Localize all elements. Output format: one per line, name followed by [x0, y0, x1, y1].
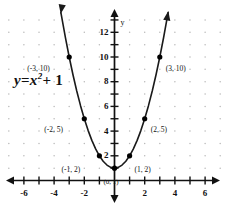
equation-label: y=x2+ 1: [14, 72, 63, 88]
x-axis-left-arrow: [6, 177, 14, 185]
grid-dot: [38, 130, 40, 132]
grid-dot: [99, 93, 101, 95]
grid-dot: [99, 69, 101, 71]
grid-dot: [53, 143, 55, 145]
y-tick-label: 12: [100, 28, 109, 37]
grid-dot: [189, 44, 191, 46]
grid-dot: [38, 19, 40, 21]
grid-dot: [23, 93, 25, 95]
grid-dot: [84, 93, 86, 95]
grid-dot: [23, 143, 25, 145]
data-point-marker: [82, 116, 87, 121]
grid-dot: [68, 93, 70, 95]
grid-dot: [8, 118, 10, 120]
grid-dot: [23, 130, 25, 132]
grid-dot: [174, 93, 176, 95]
grid-dot: [204, 19, 206, 21]
grid-dot: [219, 130, 221, 132]
grid-dot: [84, 81, 86, 83]
grid-dot: [219, 118, 221, 120]
grid-dot: [99, 44, 101, 46]
grid-dot: [68, 106, 70, 108]
grid-dot: [204, 56, 206, 58]
grid-dot: [53, 69, 55, 71]
grid-dot: [129, 81, 131, 83]
grid-dot: [159, 143, 161, 145]
grid-dot: [144, 69, 146, 71]
data-point-marker: [157, 54, 162, 59]
y-tick-label: 6: [104, 102, 109, 111]
x-tick-label: 6: [203, 189, 208, 198]
grid-dot: [68, 155, 70, 157]
y-tick-label: 8: [104, 77, 109, 86]
grid-dot: [8, 69, 10, 71]
grid-dot: [8, 44, 10, 46]
grid-dot: [159, 44, 161, 46]
grid-dot: [159, 32, 161, 34]
grid-dot: [204, 143, 206, 145]
grid-dot: [8, 130, 10, 132]
grid-dot: [144, 155, 146, 157]
grid-dot: [204, 32, 206, 34]
x-axis-right-arrow: [212, 177, 220, 185]
grid-dot: [84, 143, 86, 145]
data-point-marker: [97, 153, 102, 158]
grid-dot: [53, 19, 55, 21]
grid-dot: [219, 44, 221, 46]
grid-dot: [204, 130, 206, 132]
grid-dot: [174, 81, 176, 83]
grid-dot: [8, 81, 10, 83]
grid-dot: [8, 93, 10, 95]
grid-dot: [159, 106, 161, 108]
grid-dot: [38, 167, 40, 169]
x-tick-label: -6: [20, 189, 28, 198]
grid-dot: [174, 44, 176, 46]
grid-dot: [174, 118, 176, 120]
grid-dot: [23, 106, 25, 108]
equation-equals: =: [21, 72, 30, 88]
grid-dot: [219, 69, 221, 71]
grid-dot: [84, 69, 86, 71]
grid-dot: [84, 167, 86, 169]
grid-dot: [129, 106, 131, 108]
grid-dot: [84, 19, 86, 21]
point-label: (0, 1): [104, 179, 119, 186]
grid-dot: [189, 81, 191, 83]
grid-dot: [53, 106, 55, 108]
grid-dot: [189, 93, 191, 95]
data-point-marker: [112, 166, 117, 171]
grid-dot: [23, 118, 25, 120]
grid-dot: [68, 44, 70, 46]
grid-dot: [189, 106, 191, 108]
grid-dot: [189, 130, 191, 132]
grid-dot: [189, 19, 191, 21]
grid-dot: [38, 155, 40, 157]
y-axis-top-arrow: [111, 9, 119, 17]
grid-dot: [189, 56, 191, 58]
grid-dot: [174, 143, 176, 145]
grid-dot: [204, 118, 206, 120]
grid-dot: [219, 143, 221, 145]
y-tick-label: 4: [104, 127, 109, 136]
grid-dot: [53, 56, 55, 58]
x-tick-label: -4: [50, 189, 58, 198]
grid-dot: [53, 118, 55, 120]
grid-dot: [99, 106, 101, 108]
grid-dot: [99, 81, 101, 83]
grid-dot: [23, 32, 25, 34]
grid-dot: [23, 56, 25, 58]
grid-dot: [38, 106, 40, 108]
grid-dot: [53, 155, 55, 157]
grid-dot: [129, 118, 131, 120]
grid-dot: [38, 32, 40, 34]
grid-dot: [219, 106, 221, 108]
grid-dot: [159, 118, 161, 120]
grid-dot: [189, 69, 191, 71]
grid-dot: [204, 93, 206, 95]
grid-dot: [53, 93, 55, 95]
grid-dot: [189, 32, 191, 34]
data-point-marker: [142, 116, 147, 121]
grid-dot: [174, 32, 176, 34]
grid-dot: [144, 93, 146, 95]
curve-right-arrow: [163, 11, 170, 21]
